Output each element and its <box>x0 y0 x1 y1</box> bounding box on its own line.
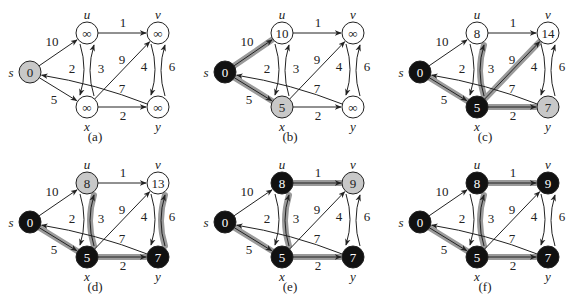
edge-weight: 3 <box>293 61 300 76</box>
edge-weight: 1 <box>315 15 322 30</box>
edge-u-x <box>275 44 279 95</box>
node-distance: 0 <box>417 65 424 80</box>
node-distance: 9 <box>545 176 552 191</box>
edge-weight: 2 <box>510 258 517 273</box>
edge-weight: 7 <box>509 231 516 246</box>
edge-u-x <box>80 44 84 95</box>
edge-weight: 9 <box>314 52 321 67</box>
edge-weight: 2 <box>315 258 322 273</box>
edge-weight: 9 <box>119 202 126 217</box>
edge-weight: 1 <box>120 15 127 30</box>
node-name: u <box>279 7 286 22</box>
edge-weight: 5 <box>51 242 58 257</box>
node-distance: 7 <box>545 250 552 265</box>
edge-weight: 10 <box>46 34 59 49</box>
edge-weight: 1 <box>510 165 517 180</box>
node-name: u <box>474 157 481 172</box>
edge-weight: 10 <box>241 184 254 199</box>
node-name: s <box>8 65 13 80</box>
edge-weight: 10 <box>436 34 449 49</box>
panel-f: 105123927460s8u9v5x7y(f) <box>398 157 565 294</box>
node-distance: ∞ <box>348 100 357 115</box>
panel-b: 105123927460s10u∞v5x∞y(b) <box>203 7 370 144</box>
node-distance: 5 <box>84 250 91 265</box>
node-name: y <box>153 269 161 284</box>
edge-weight: 7 <box>119 231 126 246</box>
edge-weight: 2 <box>69 61 76 76</box>
node-name: u <box>279 157 286 172</box>
node-name: y <box>348 119 356 134</box>
panel-caption: (f) <box>479 279 492 294</box>
node-name: y <box>543 269 551 284</box>
edge-weight: 2 <box>315 108 322 123</box>
edge-weight: 4 <box>336 59 343 74</box>
edge-weight: 10 <box>241 34 254 49</box>
edge-weight: 4 <box>141 209 148 224</box>
edge-weight: 2 <box>69 211 76 226</box>
edge-weight: 4 <box>336 209 343 224</box>
node-distance: ∞ <box>153 26 162 41</box>
node-name: v <box>155 7 161 22</box>
edge-v-y <box>151 194 155 245</box>
node-name: y <box>543 119 551 134</box>
edge-weight: 7 <box>119 81 126 96</box>
node-name: v <box>545 157 551 172</box>
panel-a: 105123927460s∞u∞v∞x∞y(a) <box>8 7 175 144</box>
edge-weight: 3 <box>293 211 300 226</box>
edge-weight: 9 <box>509 202 516 217</box>
panel-caption: (c) <box>478 129 492 144</box>
edge-weight: 2 <box>120 258 127 273</box>
edge-v-y <box>346 44 350 95</box>
edge-y-v <box>356 195 360 246</box>
node-distance: 13 <box>152 176 165 191</box>
edge-weight: 3 <box>488 211 495 226</box>
node-distance: ∞ <box>348 26 357 41</box>
edge-weight: 2 <box>120 108 127 123</box>
edge-weight: 3 <box>488 61 495 76</box>
panel-caption: (b) <box>282 129 297 144</box>
node-distance: 8 <box>279 176 286 191</box>
node-name: s <box>398 65 403 80</box>
edge-u-x <box>275 194 279 245</box>
node-name: s <box>8 215 13 230</box>
edge-y-v <box>551 45 555 96</box>
edge-weight: 2 <box>510 108 517 123</box>
node-distance: 0 <box>27 65 34 80</box>
edge-x-u <box>90 45 94 96</box>
node-distance: 7 <box>350 250 357 265</box>
edge-weight: 4 <box>531 59 538 74</box>
edge-weight: 6 <box>364 59 371 74</box>
edge-weight: 1 <box>315 165 322 180</box>
edge-weight: 6 <box>559 59 566 74</box>
panel-e: 105123927460s8u9v5x7y(e) <box>203 157 370 294</box>
edge-weight: 7 <box>509 81 516 96</box>
node-distance: 14 <box>542 26 556 41</box>
edge-weight: 1 <box>510 15 517 30</box>
edge-weight: 4 <box>141 59 148 74</box>
node-distance: 8 <box>84 176 91 191</box>
node-name: u <box>84 157 91 172</box>
edge-y-v <box>161 45 165 96</box>
node-distance: ∞ <box>82 26 91 41</box>
node-distance: 5 <box>279 250 286 265</box>
node-distance: 5 <box>279 100 286 115</box>
node-distance: 7 <box>155 250 162 265</box>
edge-weight: 2 <box>264 211 271 226</box>
edge-v-y <box>346 194 350 245</box>
edge-weight: 9 <box>119 52 126 67</box>
node-name: v <box>545 7 551 22</box>
edge-y-v <box>551 195 555 246</box>
node-distance: 8 <box>474 176 481 191</box>
dijkstra-diagram: 105123927460s∞u∞v∞x∞y(a)105123927460s10u… <box>0 0 584 300</box>
edge-v-y <box>151 44 155 95</box>
edge-weight: 5 <box>246 92 253 107</box>
edge-weight: 9 <box>314 202 321 217</box>
edge-weight: 7 <box>314 81 321 96</box>
edge-v-y <box>541 194 545 245</box>
node-distance: 9 <box>350 176 357 191</box>
edge-weight: 5 <box>51 92 58 107</box>
node-name: s <box>203 215 208 230</box>
node-distance: 7 <box>545 100 552 115</box>
edge-weight: 10 <box>46 184 59 199</box>
edge-u-x <box>470 44 474 95</box>
